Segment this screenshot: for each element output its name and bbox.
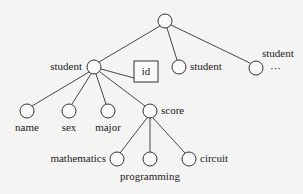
sex-node: [62, 104, 76, 118]
student1-node: [87, 60, 101, 74]
label-circuit: circuit: [200, 152, 228, 164]
label-student2: student: [190, 60, 222, 72]
edge-root-student2: [167, 28, 177, 60]
edge-score-circuit: [153, 118, 185, 153]
edges: [32, 25, 250, 153]
major-node: [101, 104, 115, 118]
root-node: [158, 14, 172, 28]
label-sex: sex: [62, 121, 77, 133]
edge-student1-major: [96, 74, 106, 104]
tree-diagram: student id student student ··· name sex …: [0, 0, 303, 194]
student3-node: [249, 61, 263, 75]
student2-node: [172, 60, 186, 74]
label-programming: programming: [120, 170, 180, 182]
circuit-node: [182, 152, 196, 166]
programming-node: [143, 152, 157, 166]
name-node: [20, 104, 34, 118]
score-node: [143, 104, 157, 118]
label-student3: student: [262, 47, 294, 59]
edge-score-mathematics: [120, 118, 147, 153]
edge-student1-sex: [72, 74, 91, 104]
mathematics-node: [110, 152, 124, 166]
label-ellipsis: ···: [270, 62, 281, 74]
edge-root-student1: [99, 26, 160, 62]
label-id: id: [142, 65, 151, 77]
label-major: major: [95, 121, 121, 133]
label-student1: student: [50, 60, 82, 72]
label-name: name: [15, 121, 39, 133]
edge-root-student3: [171, 25, 250, 63]
label-score: score: [161, 104, 184, 116]
edge-student1-name: [32, 72, 89, 106]
label-mathematics: mathematics: [50, 152, 106, 164]
